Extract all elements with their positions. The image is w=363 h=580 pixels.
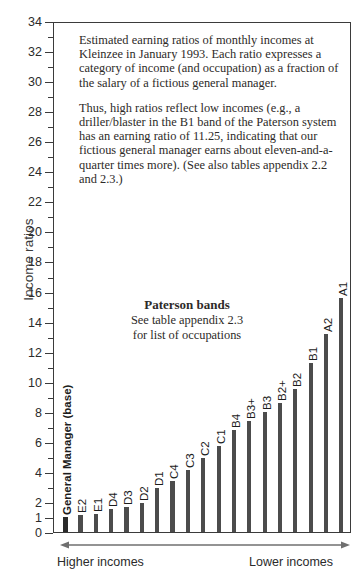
bar	[155, 488, 159, 532]
bar	[124, 507, 128, 532]
bar	[278, 403, 282, 532]
bar-label: B1	[308, 347, 320, 361]
y-tick-major	[45, 533, 53, 534]
bar-label: D3	[123, 490, 135, 505]
bar-label: B4	[231, 414, 243, 428]
y-tick-major	[45, 353, 53, 354]
bar	[170, 481, 174, 532]
bar	[309, 363, 313, 532]
y-tick-label: 1	[2, 512, 42, 525]
y-tick-major	[45, 172, 53, 173]
y-tick-label: 8	[2, 407, 42, 420]
y-tick-major	[45, 262, 53, 263]
y-tick-label: 34	[2, 16, 42, 29]
bar-label: B3	[262, 396, 274, 410]
bar-label: C3	[185, 454, 197, 469]
y-tick-major	[45, 112, 53, 113]
y-tick-major	[45, 383, 53, 384]
paterson-bands-line-3: for list of occupations	[97, 328, 277, 342]
y-tick-label: 6	[2, 437, 42, 450]
bar	[94, 514, 98, 532]
y-tick-label: 14	[2, 316, 42, 329]
y-tick-major	[45, 232, 53, 233]
y-tick-label: 0	[2, 527, 42, 540]
bar	[263, 412, 267, 532]
note-paragraph-1: Estimated earning ratios of monthly inco…	[79, 33, 347, 90]
bar-label: B2	[292, 373, 304, 387]
y-tick-major	[45, 503, 53, 504]
plot-area: General Manager (base)E2E1D4D3D2D1C4C3C2…	[53, 22, 351, 533]
y-tick-label: 22	[2, 196, 42, 209]
bar	[324, 334, 328, 532]
bar-label: C4	[169, 464, 181, 479]
y-tick-major	[45, 52, 53, 53]
y-tick-major	[45, 142, 53, 143]
y-tick-label: 30	[2, 76, 42, 89]
bar	[339, 298, 343, 532]
bar-label: C1	[216, 430, 228, 445]
bar	[232, 430, 236, 532]
y-tick-label: 20	[2, 226, 42, 239]
y-tick-major	[45, 22, 53, 23]
double-arrow-icon	[60, 540, 350, 552]
y-tick-major	[45, 518, 53, 519]
y-tick-label: 26	[2, 136, 42, 149]
y-tick-label: 10	[2, 376, 42, 389]
axis-note-higher-incomes: Higher incomes	[57, 555, 144, 569]
y-tick-major	[45, 82, 53, 83]
bar	[247, 421, 251, 532]
y-tick-label: 12	[2, 346, 42, 359]
bar-label: E2	[77, 499, 89, 513]
bar-label: A2	[323, 318, 335, 332]
y-tick-label: 28	[2, 106, 42, 119]
income-direction-arrow	[60, 540, 350, 552]
y-tick-major	[45, 413, 53, 414]
bar	[217, 446, 221, 532]
bar	[201, 458, 205, 532]
y-tick-major	[45, 202, 53, 203]
income-ratios-bar-chart: Income ratios 01246810121416182022242628…	[0, 0, 363, 580]
bar	[78, 515, 82, 532]
y-tick-major	[45, 473, 53, 474]
bar-label: General Manager (base)	[62, 385, 74, 515]
y-tick-label: 18	[2, 256, 42, 269]
y-tick-major	[45, 443, 53, 444]
y-tick-label: 24	[2, 166, 42, 179]
y-tick-major	[45, 293, 53, 294]
bar-label: D2	[139, 486, 151, 501]
bar-label: C2	[200, 442, 212, 457]
y-tick-major	[45, 323, 53, 324]
axis-note-lower-incomes: Lower incomes	[249, 555, 333, 569]
bar-label: B3+	[246, 398, 258, 419]
bar	[140, 503, 144, 532]
y-tick-label: 4	[2, 467, 42, 480]
bar-label: B2+	[277, 380, 289, 401]
y-tick-label: 2	[2, 497, 42, 510]
paterson-bands-title: Paterson bands	[97, 298, 277, 312]
bar	[109, 509, 113, 532]
bar-label: D4	[108, 493, 120, 508]
bar	[293, 389, 297, 532]
y-tick-label: 16	[2, 286, 42, 299]
bar	[63, 517, 68, 532]
bar-label: E1	[93, 498, 105, 512]
bar	[186, 470, 190, 532]
paterson-bands-line-2: See table appendix 2.3	[97, 313, 277, 327]
paterson-bands-caption: Paterson bands See table appendix 2.3 fo…	[97, 298, 277, 342]
y-tick-label: 32	[2, 46, 42, 59]
explanatory-note: Estimated earning ratios of monthly inco…	[79, 33, 347, 197]
note-paragraph-2: Thus, high ratios reflect low incomes (e…	[79, 101, 347, 186]
bar-label: A1	[338, 281, 350, 295]
bar-label: D1	[154, 472, 166, 487]
